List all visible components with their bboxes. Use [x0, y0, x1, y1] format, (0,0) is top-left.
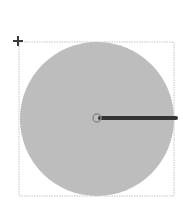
diagram-canvas	[0, 0, 183, 205]
move-handle-icon[interactable]	[13, 36, 23, 46]
